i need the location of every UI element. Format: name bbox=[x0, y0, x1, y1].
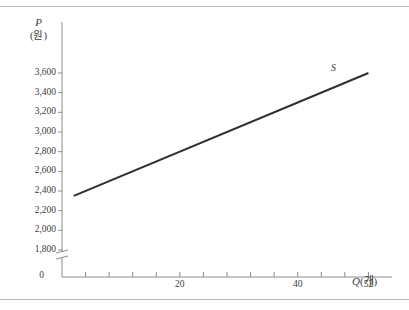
x-tick-label: 52 bbox=[353, 279, 383, 289]
y-axis-symbol: P bbox=[30, 16, 47, 29]
y-axis-unit: (원) bbox=[30, 29, 47, 42]
y-tick-label: 2,800 bbox=[14, 146, 56, 156]
origin-label: 0 bbox=[30, 270, 44, 280]
y-axis-title: P (원) bbox=[30, 16, 47, 42]
supply-curve-chart bbox=[0, 0, 409, 310]
y-tick-label: 3,000 bbox=[14, 126, 56, 136]
y-tick-label: 3,400 bbox=[14, 87, 56, 97]
y-tick-label: 3,600 bbox=[14, 67, 56, 77]
y-tick-label: 2,000 bbox=[14, 224, 56, 234]
x-tick-label: 20 bbox=[165, 279, 195, 289]
x-axis-ticks bbox=[86, 272, 369, 277]
x-tick-label: 40 bbox=[283, 279, 313, 289]
y-tick-label: 1,800 bbox=[14, 244, 56, 254]
supply-curve-label: S bbox=[331, 62, 336, 73]
y-tick-label: 3,200 bbox=[14, 106, 56, 116]
supply-curve-line bbox=[74, 73, 369, 196]
y-tick-label: 2,200 bbox=[14, 205, 56, 215]
series-group bbox=[74, 73, 369, 196]
y-axis-ticks bbox=[58, 73, 62, 250]
y-tick-label: 2,600 bbox=[14, 165, 56, 175]
y-tick-label: 2,400 bbox=[14, 185, 56, 195]
